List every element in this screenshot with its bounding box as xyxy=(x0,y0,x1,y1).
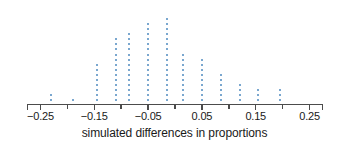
data-dot xyxy=(147,33,149,35)
data-dot xyxy=(239,84,241,86)
data-dot xyxy=(115,69,117,71)
data-dot xyxy=(147,38,149,40)
data-dot xyxy=(166,89,168,91)
data-dot xyxy=(201,84,203,86)
data-dot xyxy=(201,69,203,71)
data-dot xyxy=(96,89,98,91)
data-dot xyxy=(96,99,98,101)
data-dot xyxy=(279,94,281,96)
data-dot xyxy=(201,94,203,96)
axis-tick-label: 0.05 xyxy=(192,110,213,122)
data-dot xyxy=(220,84,222,86)
data-dot xyxy=(96,79,98,81)
data-dot xyxy=(182,54,184,56)
data-dot xyxy=(166,84,168,86)
data-dot xyxy=(128,64,130,66)
data-dot xyxy=(166,69,168,71)
data-dot xyxy=(115,79,117,81)
dot-stack xyxy=(146,23,151,104)
dot-stack xyxy=(127,33,132,104)
data-dot xyxy=(220,74,222,76)
data-dot xyxy=(128,38,130,40)
data-dot xyxy=(166,23,168,25)
data-dot xyxy=(147,79,149,81)
data-dot xyxy=(166,38,168,40)
data-dot xyxy=(182,79,184,81)
data-dot xyxy=(166,54,168,56)
data-dot xyxy=(128,69,130,71)
data-dot xyxy=(166,64,168,66)
data-dot xyxy=(166,33,168,35)
data-dot xyxy=(182,74,184,76)
data-dot xyxy=(115,99,117,101)
data-dot xyxy=(147,54,149,56)
data-dot xyxy=(128,84,130,86)
dot-stack xyxy=(277,89,282,104)
dotplot-figure: simulated differences in proportions −0.… xyxy=(0,0,349,147)
data-dot xyxy=(96,84,98,86)
data-dot xyxy=(50,94,52,96)
x-axis-label: simulated differences in proportions xyxy=(0,126,349,140)
data-dot xyxy=(128,43,130,45)
data-dot xyxy=(115,89,117,91)
data-dot xyxy=(182,64,184,66)
dot-stack xyxy=(181,54,186,104)
data-dot xyxy=(128,89,130,91)
axis-tick-label: 0.15 xyxy=(245,110,266,122)
data-dot xyxy=(147,23,149,25)
data-dot xyxy=(201,99,203,101)
axis-minor-tick xyxy=(120,104,121,109)
data-dot xyxy=(115,59,117,61)
data-dot xyxy=(166,48,168,50)
plot-area xyxy=(0,0,349,104)
dot-stack xyxy=(218,74,223,104)
data-dot xyxy=(147,69,149,71)
data-dot xyxy=(147,99,149,101)
data-dot xyxy=(201,79,203,81)
data-dot xyxy=(115,64,117,66)
axis-end-cap xyxy=(322,104,323,110)
dot-stack xyxy=(256,89,261,104)
data-dot xyxy=(257,99,259,101)
dot-stack xyxy=(164,18,169,104)
data-dot xyxy=(279,99,281,101)
data-dot xyxy=(128,48,130,50)
data-dot xyxy=(147,64,149,66)
data-dot xyxy=(115,38,117,40)
axis-tick-label: −0.05 xyxy=(135,110,162,122)
data-dot xyxy=(96,64,98,66)
data-dot xyxy=(166,18,168,20)
data-dot xyxy=(257,89,259,91)
data-dot xyxy=(147,59,149,61)
data-dot xyxy=(147,48,149,50)
data-dot xyxy=(182,59,184,61)
data-dot xyxy=(128,33,130,35)
data-dot xyxy=(166,28,168,30)
data-dot xyxy=(166,99,168,101)
data-dot xyxy=(115,43,117,45)
data-dot xyxy=(201,64,203,66)
data-dot xyxy=(147,74,149,76)
data-dot xyxy=(182,94,184,96)
data-dot xyxy=(128,54,130,56)
data-dot xyxy=(96,74,98,76)
data-dot xyxy=(166,59,168,61)
data-dot xyxy=(220,94,222,96)
data-dot xyxy=(239,94,241,96)
axis-minor-tick xyxy=(174,104,175,109)
data-dot xyxy=(96,69,98,71)
x-axis: simulated differences in proportions −0.… xyxy=(0,104,349,147)
data-dot xyxy=(128,79,130,81)
data-dot xyxy=(115,84,117,86)
data-dot xyxy=(239,89,241,91)
data-dot xyxy=(182,69,184,71)
axis-tick-label: 0.25 xyxy=(299,110,320,122)
data-dot xyxy=(96,94,98,96)
data-dot xyxy=(166,74,168,76)
data-dot xyxy=(201,59,203,61)
data-dot xyxy=(257,94,259,96)
data-dot xyxy=(220,79,222,81)
data-dot xyxy=(166,43,168,45)
dot-stack xyxy=(94,64,99,104)
data-dot xyxy=(166,79,168,81)
